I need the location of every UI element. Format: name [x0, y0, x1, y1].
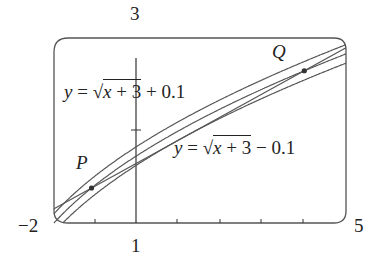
- x-min-label: −2: [18, 216, 38, 235]
- point-p-label: P: [76, 153, 88, 172]
- y-max-label: 3: [130, 4, 140, 23]
- lower-curve-equation: y = √x + 3 − 0.1: [174, 138, 295, 157]
- point-p: [89, 185, 94, 190]
- viewing-frame: [54, 38, 346, 223]
- upper-curve-equation: y = √x + 3 + 0.1: [64, 82, 185, 101]
- graph-canvas: [0, 0, 389, 263]
- point-q: [302, 68, 307, 73]
- point-q-label: Q: [272, 42, 286, 61]
- x-max-label: 5: [354, 216, 364, 235]
- y-min-label: 1: [131, 236, 141, 255]
